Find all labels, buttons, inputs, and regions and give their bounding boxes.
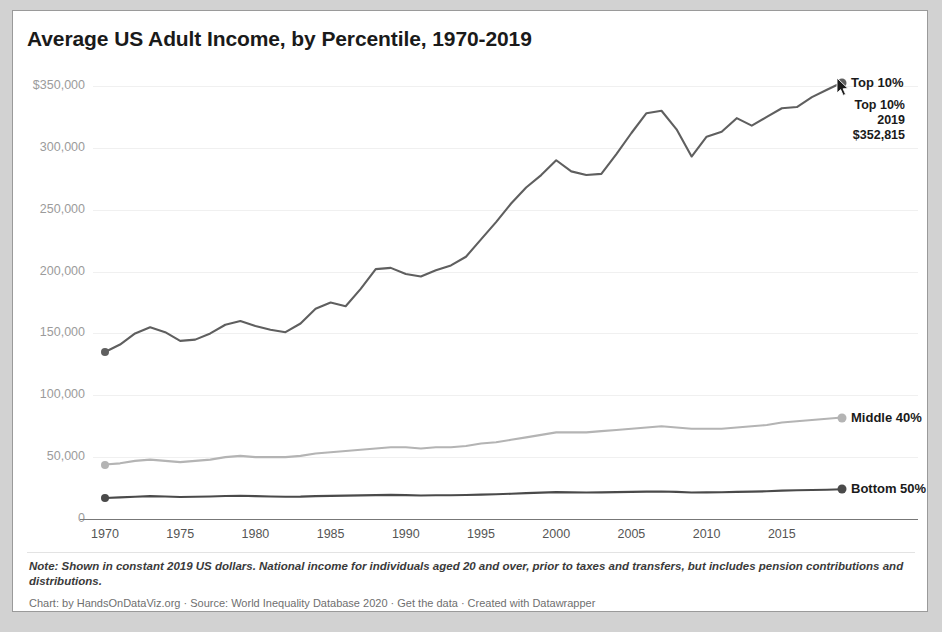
series-line[interactable]	[105, 83, 842, 352]
footer-divider	[27, 552, 915, 553]
chart-tooltip: Top 10% 2019 $352,815	[785, 98, 905, 143]
series-start-dot	[101, 461, 109, 469]
chart-note: Note: Shown in constant 2019 US dollars.…	[29, 559, 913, 589]
tooltip-year: 2019	[785, 113, 905, 128]
tooltip-series: Top 10%	[785, 98, 905, 113]
series-start-dot	[101, 348, 109, 356]
screenshot-root: Average US Adult Income, by Percentile, …	[0, 0, 942, 632]
series-line[interactable]	[105, 489, 842, 498]
series-label-top-10: Top 10%	[851, 75, 904, 90]
series-end-dot[interactable]	[838, 485, 847, 494]
series-label-bottom-50: Bottom 50%	[851, 481, 926, 496]
tooltip-value: $352,815	[785, 128, 905, 143]
series-end-dot[interactable]	[838, 413, 847, 422]
chart-card: Average US Adult Income, by Percentile, …	[12, 10, 928, 612]
series-line[interactable]	[105, 418, 842, 465]
series-label-middle-40: Middle 40%	[851, 410, 922, 425]
chart-credit[interactable]: Chart: by HandsOnDataViz.org · Source: W…	[29, 597, 595, 609]
series-start-dot	[101, 494, 109, 502]
mouse-pointer-icon	[836, 77, 850, 97]
